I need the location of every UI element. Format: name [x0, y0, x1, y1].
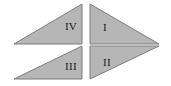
- triangle-label-iv: IV: [65, 20, 77, 32]
- triangle-label-iii: III: [65, 60, 77, 72]
- triangle-quadrant-figure: I II III IV: [0, 0, 171, 86]
- triangle-label-ii: II: [103, 56, 111, 68]
- triangle-label-i: I: [103, 21, 107, 33]
- figure-canvas: I II III IV: [0, 0, 171, 86]
